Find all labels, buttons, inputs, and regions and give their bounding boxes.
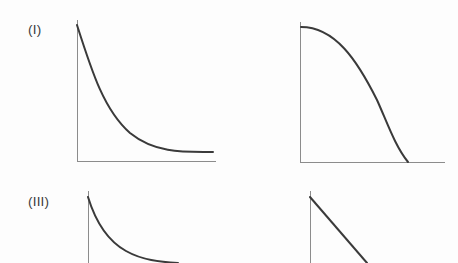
panel-four: (IV) — [229, 175, 458, 263]
figure-container: (I) (II) (III) (IV) — [0, 0, 458, 263]
panel-two-curve — [301, 27, 408, 162]
panel-three-curve — [88, 197, 178, 263]
panel-three-plot — [0, 175, 229, 263]
panel-three: (III) — [0, 175, 229, 263]
panel-four-plot — [229, 175, 458, 263]
panel-four-curve — [310, 197, 367, 263]
panel-one: (I) — [0, 0, 229, 175]
panel-two-plot — [229, 0, 458, 175]
panel-one-curve — [77, 25, 213, 152]
panel-two: (II) — [229, 0, 458, 175]
panel-one-plot — [0, 0, 229, 175]
